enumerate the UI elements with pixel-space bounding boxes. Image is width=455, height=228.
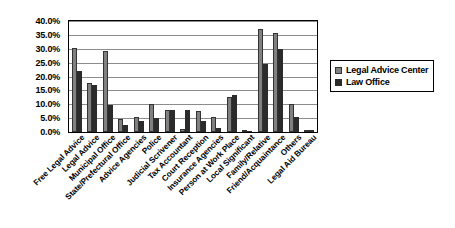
y-axis: 0.0%5.0%10.0%15.0%20.0%25.0%30.0%35.0%40… — [0, 20, 64, 133]
bar — [309, 130, 314, 132]
legend-item: Legal Advice Center — [335, 64, 428, 76]
bar — [170, 110, 175, 132]
legend-item: Law Office — [335, 76, 428, 88]
bar-group — [100, 21, 116, 132]
legend-swatch-icon — [335, 67, 342, 74]
y-axis-tick-label: 20.0% — [35, 72, 60, 81]
bar-group — [178, 21, 194, 132]
legend-label: Law Office — [346, 77, 390, 87]
bar-group — [147, 21, 163, 132]
bar-group — [116, 21, 132, 132]
bar-group — [193, 21, 209, 132]
x-axis: Free Legal AdviceLegal AdviceMunicipal O… — [0, 133, 455, 228]
bar-group — [240, 21, 256, 132]
bar-group — [255, 21, 271, 132]
bar-group — [209, 21, 225, 132]
y-axis-tick-label: 25.0% — [35, 58, 60, 67]
bar-group — [69, 21, 85, 132]
y-axis-tick-label: 35.0% — [35, 30, 60, 39]
bar-chart: 0.0%5.0%10.0%15.0%20.0%25.0%30.0%35.0%40… — [0, 0, 455, 228]
bars-layer — [69, 21, 317, 132]
y-axis-tick-label: 30.0% — [35, 44, 60, 53]
bar-group — [271, 21, 287, 132]
y-axis-tick-label: 15.0% — [35, 86, 60, 95]
y-axis-tick-label: 10.0% — [35, 100, 60, 109]
chart-legend: Legal Advice CenterLaw Office — [330, 60, 434, 92]
bar — [263, 64, 268, 132]
bar-group — [131, 21, 147, 132]
bar — [154, 118, 159, 132]
bar — [139, 121, 144, 132]
bar-group — [286, 21, 302, 132]
bar — [185, 110, 190, 132]
bar-group — [85, 21, 101, 132]
bar — [201, 121, 206, 132]
bar — [216, 128, 221, 132]
bar — [278, 49, 283, 132]
bar-group — [162, 21, 178, 132]
y-axis-tick-label: 5.0% — [40, 114, 60, 123]
bar-group — [302, 21, 318, 132]
bar-group — [224, 21, 240, 132]
legend-swatch-icon — [335, 79, 342, 86]
bar — [108, 105, 113, 132]
bar — [77, 71, 82, 132]
legend-label: Legal Advice Center — [346, 65, 428, 75]
bar — [92, 85, 97, 132]
bar — [294, 117, 299, 132]
bar — [123, 125, 128, 132]
y-axis-tick-label: 40.0% — [35, 17, 60, 26]
bar — [232, 95, 237, 132]
